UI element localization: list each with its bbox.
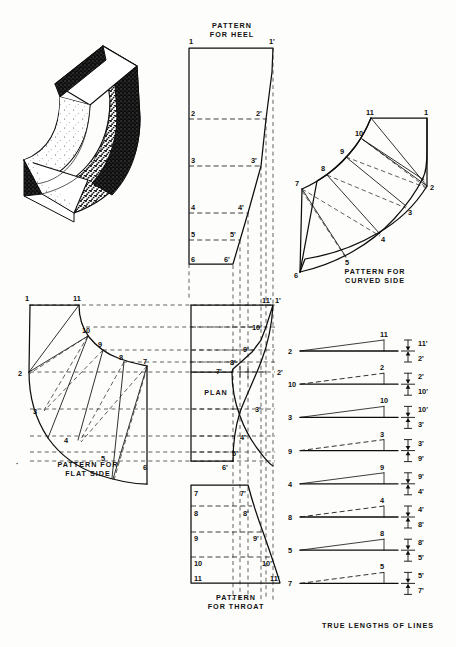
true-length-dimension	[401, 473, 415, 495]
cs-label-4: 4	[381, 235, 386, 244]
dimension-arrow-down-head	[406, 352, 411, 356]
cs-label-11: 11	[366, 108, 374, 117]
true-length-bottom-label: 3'	[418, 420, 424, 429]
fs-dash-10-2	[29, 336, 88, 374]
fs-line-9-4	[78, 350, 103, 440]
curved-side-caption-line1: PATTERN FOR	[344, 267, 405, 276]
dimension-arrow-up-head	[406, 546, 411, 550]
fs-label-10: 10	[82, 326, 90, 335]
throat-label-9: 9	[194, 534, 198, 543]
fs-label-3: 3	[33, 407, 37, 416]
true-length-row: 844'8'	[288, 496, 424, 529]
flat-side-caption-line1: PATTERN FOR	[57, 460, 118, 469]
true-length-top-label: 4'	[418, 505, 424, 514]
true-length-apex-label: 9	[380, 463, 384, 472]
fs-label-1: 1	[25, 294, 29, 303]
dimension-arrow-up-head	[406, 512, 411, 516]
cs-dash-9-2	[346, 157, 427, 188]
true-length-bottom-label: 10'	[418, 387, 428, 396]
heel-label-1p: 1'	[269, 37, 275, 46]
curved-side-edge-a	[300, 118, 427, 272]
plan-view: PLAN 11' 1' 10' 9' 8' 7' 2' 3' 4' 5' 6'	[191, 296, 283, 472]
heel-label-1: 1	[189, 37, 193, 46]
true-length-left-label: 5	[288, 546, 292, 555]
true-length-dimension	[401, 340, 415, 362]
true-length-left-label: 8	[288, 513, 292, 522]
flat-side-caption-line2: FLAT SIDE	[65, 469, 111, 478]
dimension-arrow-up-head	[406, 479, 411, 483]
true-length-apex-label: 10	[380, 396, 388, 405]
heel-label-4: 4	[191, 203, 196, 212]
true-length-bottom-label: 9'	[418, 454, 424, 463]
throat-label-11: 11	[194, 574, 202, 583]
fs-dash-7-4	[81, 366, 147, 442]
cs-label-8: 8	[321, 164, 325, 173]
heel-label-2p: 2'	[256, 109, 262, 118]
true-length-dimension	[401, 440, 415, 462]
dimension-arrow-down-head	[406, 518, 411, 522]
cs-label-2: 2	[430, 183, 434, 192]
throat-label-9p: 9'	[253, 534, 259, 543]
true-length-hypotenuse	[300, 473, 384, 484]
heel-label-3p: 3'	[251, 156, 257, 165]
true-length-apex-label: 11	[380, 330, 388, 339]
plan-label-8p: 8'	[230, 358, 236, 367]
heel-label-5: 5	[191, 230, 195, 239]
dimension-arrow-up-head	[406, 346, 411, 350]
dimension-arrow-down-head	[406, 385, 411, 389]
true-length-bottom-label: 5'	[418, 553, 424, 562]
throat-caption-line2: FOR THROAT	[208, 602, 265, 611]
dimension-arrow-down-head	[406, 584, 411, 588]
heel-label-5p: 5'	[230, 230, 236, 239]
cs-label-9: 9	[340, 147, 344, 156]
curved-side-caption-line2: CURVED SIDE	[345, 276, 405, 285]
true-length-dimension	[401, 572, 415, 594]
heel-label-6: 6	[191, 255, 195, 264]
true-length-apex-label: 2	[380, 363, 384, 372]
cs-dash-8-3	[327, 175, 406, 208]
true-length-row: 31010'3'	[288, 396, 428, 429]
true-length-dimension	[401, 373, 415, 395]
true-length-hypotenuse	[300, 340, 384, 351]
fs-label-7: 7	[143, 357, 147, 366]
true-length-bottom-label: 2'	[418, 354, 424, 363]
true-length-hypotenuse	[300, 539, 384, 550]
true-length-left-label: 3	[288, 413, 292, 422]
true-length-left-label: 10	[288, 380, 296, 389]
dimension-arrow-up-head	[406, 579, 411, 583]
true-length-left-label: 7	[288, 579, 292, 588]
plan-label-6p: 6'	[222, 463, 228, 472]
true-length-apex-label: 4	[380, 496, 385, 505]
curved-side-edge-b	[300, 118, 371, 272]
true-length-top-label: 3'	[418, 439, 424, 448]
plan-label-4p: 4'	[240, 433, 246, 442]
plan-label-10p: 10'	[252, 323, 262, 332]
fs-label-6: 6	[143, 463, 147, 472]
true-length-bottom-label: 4'	[418, 487, 424, 496]
true-length-left-label: 9	[288, 447, 292, 456]
fs-left-edge	[29, 305, 30, 372]
dimension-arrow-up-head	[406, 380, 411, 384]
true-length-top-label: 5'	[418, 571, 424, 580]
cs-label-7: 7	[295, 179, 299, 188]
true-length-dimension	[401, 406, 415, 428]
fs-label-8: 8	[119, 353, 123, 362]
fs-line-10-4	[48, 336, 88, 438]
plan-label-5p: 5'	[232, 449, 238, 458]
true-length-top-label: 9'	[418, 472, 424, 481]
true-length-hypotenuse	[300, 406, 384, 417]
throat-label-7: 7	[194, 489, 198, 498]
true-length-top-label: 10'	[418, 405, 428, 414]
true-length-hypotenuse	[300, 506, 384, 517]
cs-label-6: 6	[294, 271, 298, 280]
dimension-arrow-up-head	[406, 446, 411, 450]
heel-label-4p: 4'	[238, 203, 244, 212]
dimension-arrow-up-head	[406, 413, 411, 417]
throat-outline	[191, 485, 280, 583]
fs-outer-arc	[79, 305, 147, 366]
true-length-top-label: 8'	[418, 538, 424, 547]
fs-label-2: 2	[18, 369, 22, 378]
heel-caption-line1: PATTERN	[212, 21, 252, 30]
true-length-top-label: 2'	[418, 372, 424, 381]
pattern-for-flat-side: 1 11 10 9 8 7 2 3 4 5 6 PATTERN FOR FLAT…	[16, 294, 147, 484]
